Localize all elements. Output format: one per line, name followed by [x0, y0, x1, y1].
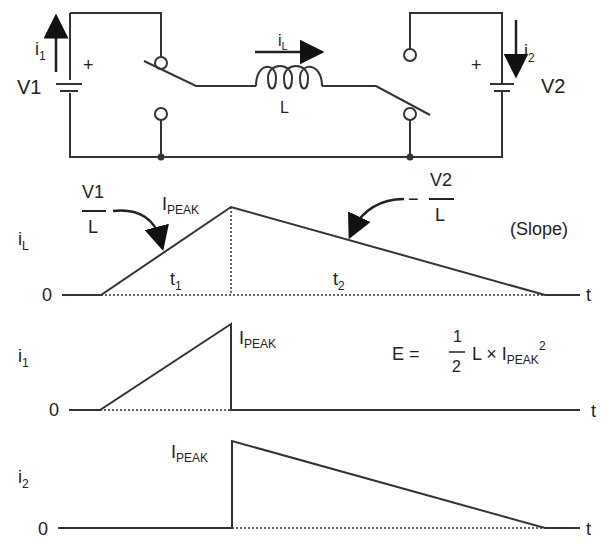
i1-zero-label: 0 — [49, 400, 59, 420]
v1-label: V1 — [17, 76, 41, 98]
il-zero-label: 0 — [42, 285, 52, 305]
switch2-top-contact — [404, 49, 416, 61]
v2-plus-sign: + — [471, 55, 482, 75]
slope-down-arrow — [354, 199, 404, 228]
i2-trace — [58, 441, 580, 528]
i1-waveform: i1 0 t IPEAK E = 1 2 L × IPEAK2 — [18, 324, 596, 421]
il-waveform: iL 0 t IPEAK t1 t2 V1 L − V2 L (Slope) — [18, 170, 591, 305]
slope-note: (Slope) — [510, 219, 568, 239]
wire-bottom-right — [410, 92, 502, 157]
slope-down-numerator: V2 — [430, 170, 452, 190]
t2-label: t2 — [333, 269, 345, 293]
i1-peak-label: IPEAK — [239, 328, 276, 351]
circuit: i1 V1 + iL L + i2 V2 — [17, 13, 565, 161]
i2-time-label: t — [586, 519, 591, 539]
v1-plus-sign: + — [83, 55, 94, 75]
il-trace — [62, 207, 580, 295]
t1-label: t1 — [170, 269, 182, 293]
wire-bottom — [70, 93, 408, 157]
junction-dot-right — [407, 154, 414, 161]
inductor-label: L — [280, 99, 289, 116]
i1-trace — [69, 324, 580, 410]
switch1-bottom-contact — [155, 108, 167, 120]
i2-waveform: i2 0 t IPEAK — [18, 441, 591, 539]
il-time-label: t — [586, 285, 591, 305]
i1-time-label: t — [591, 401, 596, 421]
energy-lhs: E = — [392, 344, 420, 364]
il-peak-label: IPEAK — [162, 194, 199, 217]
inductor-coil — [256, 66, 322, 89]
energy-rhs: L × IPEAK2 — [472, 339, 546, 367]
wire-top-right — [410, 13, 502, 84]
slope-down-denominator: L — [435, 205, 445, 225]
switch2-bottom-contact — [404, 108, 416, 120]
i2-zero-label: 0 — [38, 519, 48, 539]
i2-label: i2 — [524, 41, 535, 65]
slope-up-denominator: L — [88, 217, 98, 237]
slope-down-sign: − — [408, 189, 419, 209]
il-label: iL — [278, 32, 288, 52]
i1-axis-label: i1 — [18, 346, 29, 370]
junction-dot-left — [158, 154, 165, 161]
il-axis-label: iL — [18, 229, 29, 253]
wire-top-left — [70, 13, 161, 58]
slope-up-numerator: V1 — [82, 182, 104, 202]
energy-fraction-numerator: 1 — [453, 328, 462, 345]
slope-up-arrow — [113, 211, 160, 239]
i2-axis-label: i2 — [18, 467, 29, 491]
energy-fraction-denominator: 2 — [452, 358, 461, 375]
v2-label: V2 — [541, 75, 565, 97]
buck-boost-diagram: i1 V1 + iL L + i2 V2 iL 0 t IPEAK t1 t2 … — [0, 0, 608, 554]
i2-peak-label: IPEAK — [171, 442, 208, 465]
i1-label: i1 — [35, 39, 46, 63]
